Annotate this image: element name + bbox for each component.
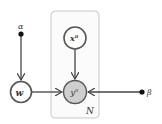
beta-node <box>139 89 144 94</box>
w-label: w <box>16 88 24 98</box>
graphical-model-diagram: N α β w xn yn <box>0 0 162 124</box>
alpha-node <box>18 31 23 36</box>
beta-label: β <box>146 88 152 97</box>
plate-label: N <box>85 106 95 116</box>
alpha-label: α <box>18 22 24 31</box>
